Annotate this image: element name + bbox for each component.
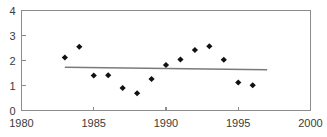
x-tick-label-1995: 1995	[226, 117, 250, 129]
data-point	[76, 44, 82, 50]
data-point	[250, 82, 256, 88]
data-point	[163, 62, 169, 68]
y-tick-label-0: 0	[9, 105, 15, 117]
data-point	[91, 72, 97, 78]
x-tick-label-1980: 1980	[9, 117, 33, 129]
data-point	[62, 54, 68, 60]
y-tick-label-2: 2	[9, 55, 15, 67]
data-point	[134, 90, 140, 96]
y-tick-label-1: 1	[9, 80, 15, 92]
y-tick-label-3: 3	[9, 30, 15, 42]
data-point	[177, 56, 183, 62]
data-point	[192, 47, 198, 53]
x-tick-label-2000: 2000	[298, 117, 322, 129]
data-point	[221, 57, 227, 63]
y-tick-label-4: 4	[9, 5, 15, 17]
data-point	[105, 72, 111, 78]
x-tick-label-1985: 1985	[82, 117, 106, 129]
data-point	[235, 79, 241, 85]
data-point	[206, 43, 212, 49]
scatter-plot-svg: 1980198519901995200001234	[0, 0, 327, 137]
chart-figure: 1980198519901995200001234	[0, 0, 327, 137]
data-point	[120, 85, 126, 91]
data-point	[148, 76, 154, 82]
x-tick-label-1990: 1990	[154, 117, 178, 129]
